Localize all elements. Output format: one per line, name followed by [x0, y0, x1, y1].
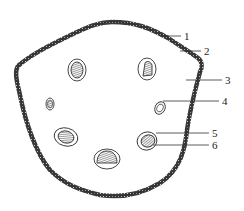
stem-cross-section-diagram: 1 2 3 4 5 6	[0, 0, 244, 211]
vascular-bundle	[46, 98, 54, 110]
vascular-bundle	[138, 58, 156, 80]
label-2: 2	[204, 45, 210, 57]
label-4: 4	[222, 95, 228, 107]
vascular-bundles	[46, 58, 167, 169]
vascular-bundle-small	[153, 100, 168, 116]
vascular-bundle	[52, 125, 80, 149]
label-6: 6	[212, 139, 218, 151]
vascular-bundle	[94, 149, 120, 169]
label-5: 5	[212, 127, 218, 139]
label-1: 1	[184, 30, 190, 42]
label-3: 3	[225, 74, 231, 86]
vascular-bundle	[68, 59, 86, 81]
vascular-bundle	[135, 129, 160, 153]
